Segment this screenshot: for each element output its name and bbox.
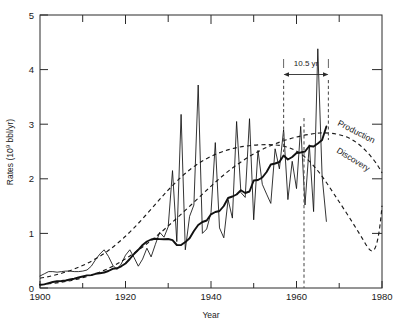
axis-box xyxy=(40,15,382,288)
arrowhead-right-icon xyxy=(323,72,328,77)
svg-text:Discovery: Discovery xyxy=(335,145,373,174)
yticklabel-4: 4 xyxy=(29,64,34,75)
x-axis-ticks-top xyxy=(83,15,340,24)
yticklabel-1: 1 xyxy=(29,228,34,239)
discovery-curve-label: Discovery xyxy=(335,145,373,174)
plot-frame xyxy=(40,15,382,288)
yticklabel-5: 5 xyxy=(29,10,34,21)
x-axis-title: Year xyxy=(202,310,219,320)
arrowhead-left-icon xyxy=(284,72,289,77)
interval-annotation: 10.5 yr xyxy=(284,59,329,77)
svg-text:Production: Production xyxy=(336,118,377,145)
xticklabel-1940: 1940 xyxy=(200,291,221,302)
yticklabel-2: 2 xyxy=(29,173,34,184)
chart-svg: 1900 1920 1940 1960 1980 0 1 2 3 4 5 Yea… xyxy=(0,0,409,327)
y-axis-ticks-left xyxy=(40,15,48,288)
svg-text:Rates (109 bbl/yr): Rates (109 bbl/yr) xyxy=(4,119,15,185)
x-axis-tick-labels: 1900 1920 1940 1960 1980 xyxy=(29,291,392,302)
x-axis-ticks-bottom xyxy=(40,281,382,288)
chart-figure: 1900 1920 1940 1960 1980 0 1 2 3 4 5 Yea… xyxy=(0,0,409,327)
yticklabel-3: 3 xyxy=(29,119,34,130)
y-axis-title: Rates (109 bbl/yr) xyxy=(4,119,15,185)
y-axis-tick-labels: 0 1 2 3 4 5 xyxy=(29,10,34,294)
yticklabel-0: 0 xyxy=(29,283,34,294)
interval-label: 10.5 yr xyxy=(294,59,319,68)
y-axis-title-suffix: bbl/yr) xyxy=(5,119,15,145)
y-axis-ticks-right xyxy=(372,70,382,234)
xticklabel-1980: 1980 xyxy=(371,291,392,302)
xticklabel-1960: 1960 xyxy=(286,291,307,302)
xticklabel-1920: 1920 xyxy=(115,291,136,302)
production-curve-label: Production xyxy=(336,118,377,145)
y-axis-title-prefix: Rates (10 xyxy=(5,148,15,185)
